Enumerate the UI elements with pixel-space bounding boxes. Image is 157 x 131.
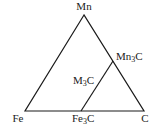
m3c-base: M xyxy=(73,74,83,86)
point-label-fe3c: Fe3C xyxy=(72,112,94,126)
m3c-tail: C xyxy=(87,74,94,86)
fe3c-tail: C xyxy=(87,112,94,124)
ternary-triangle xyxy=(25,15,144,111)
tie-line-label-m3c: M3C xyxy=(73,74,94,88)
vertex-label-c: C xyxy=(141,112,148,124)
vertex-label-mn: Mn xyxy=(76,0,92,12)
mn3c-base: Mn xyxy=(116,50,132,62)
fe3c-base: Fe xyxy=(72,112,83,124)
mn3c-tail: C xyxy=(135,50,142,62)
ternary-diagram: Mn Fe C Fe3C Mn3C M3C xyxy=(0,0,157,131)
point-label-mn3c: Mn3C xyxy=(116,50,143,64)
vertex-label-fe: Fe xyxy=(13,112,24,124)
